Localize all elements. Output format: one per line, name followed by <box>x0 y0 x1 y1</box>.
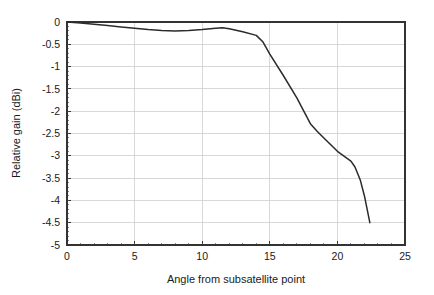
line-chart: 0-0.5-1-1.5-2-2.5-3-3.5-4-4.5-5 05101520… <box>0 0 434 295</box>
x-axis-title: Angle from subsatellite point <box>167 273 305 285</box>
svg-text:-3.5: -3.5 <box>42 172 60 184</box>
svg-text:10: 10 <box>196 250 208 262</box>
svg-text:25: 25 <box>399 250 411 262</box>
chart-figure: 0-0.5-1-1.5-2-2.5-3-3.5-4-4.5-5 05101520… <box>0 0 434 295</box>
svg-text:-1.5: -1.5 <box>42 83 60 95</box>
svg-text:-3: -3 <box>51 149 60 161</box>
svg-text:15: 15 <box>264 250 276 262</box>
svg-text:20: 20 <box>332 250 344 262</box>
svg-text:0: 0 <box>54 16 60 28</box>
svg-text:5: 5 <box>132 250 138 262</box>
svg-text:0: 0 <box>64 250 70 262</box>
svg-text:-5: -5 <box>51 239 60 251</box>
data-series-group <box>67 22 370 223</box>
x-axis-tick-labels: 0510152025 <box>64 250 411 262</box>
svg-text:-2.5: -2.5 <box>42 127 60 139</box>
svg-text:-4: -4 <box>51 194 60 206</box>
svg-text:-0.5: -0.5 <box>42 38 60 50</box>
y-axis-tick-labels: 0-0.5-1-1.5-2-2.5-3-3.5-4-4.5-5 <box>42 16 60 251</box>
svg-text:-1: -1 <box>51 60 60 72</box>
svg-text:-2: -2 <box>51 105 60 117</box>
y-axis-title: Relative gain (dBi) <box>10 88 22 178</box>
data-series-line <box>67 22 370 223</box>
svg-text:-4.5: -4.5 <box>42 216 60 228</box>
gridlines-horizontal <box>67 44 405 222</box>
